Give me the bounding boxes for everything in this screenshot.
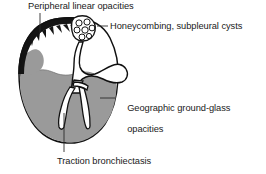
annotation-geographic-line1: Geographic ground-glass [127,103,230,113]
annotation-geographic-ground-glass-opacities: Geographic ground-glass opacities [117,92,230,145]
honeycomb-cyst-cluster [71,16,95,41]
annotation-geographic-line2: opacities [127,124,163,134]
annotation-traction-bronchiectasis: Traction bronchiectasis [57,156,151,167]
annotation-peripheral-linear-opacities: Peripheral linear opacities [28,1,134,12]
annotation-honeycombing-subpleural-cysts: Honeycombing, subpleural cysts [110,21,242,32]
figure-container: Peripheral linear opacities Honeycombing… [0,0,266,174]
